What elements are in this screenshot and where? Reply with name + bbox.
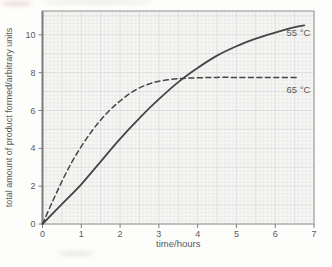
x-tick-label: 0 <box>40 229 45 239</box>
x-tick-label: 1 <box>79 229 84 239</box>
y-tick-label: 0 <box>30 219 35 229</box>
y-axis-title: total amount of product formed/arbitrary… <box>4 27 14 207</box>
enzyme-product-vs-time-chart: 01234567024681055 °C65 °Ctime/hourstotal… <box>0 0 332 267</box>
y-tick-label: 2 <box>30 181 35 191</box>
series-label-55c: 55 °C <box>287 27 311 38</box>
series-label-65c: 65 °C <box>287 84 311 95</box>
x-tick-label: 5 <box>234 229 239 239</box>
y-tick-label: 6 <box>30 106 35 116</box>
y-tick-label: 10 <box>25 30 35 40</box>
x-tick-label: 6 <box>273 229 278 239</box>
x-tick-label: 2 <box>118 229 123 239</box>
y-tick-label: 4 <box>30 143 35 153</box>
chart-svg: 01234567024681055 °C65 °Ctime/hourstotal… <box>0 0 332 267</box>
x-tick-label: 7 <box>311 229 316 239</box>
y-tick-label: 8 <box>30 68 35 78</box>
x-axis-title: time/hours <box>156 238 201 249</box>
